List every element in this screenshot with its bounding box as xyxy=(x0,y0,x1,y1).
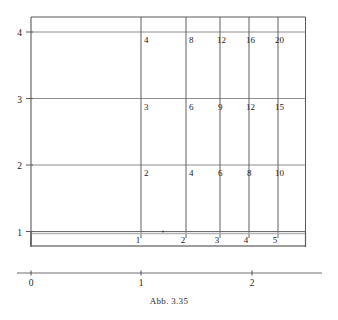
x-axis-numberline: 0 1 2 xyxy=(17,271,322,289)
cell-2-4: 8 xyxy=(247,168,252,178)
cell-3-2: 6 xyxy=(189,102,194,112)
y-tick-label-4: 4 xyxy=(17,28,22,38)
cell-4-2: 8 xyxy=(189,35,194,45)
lattice-row-2: 2 4 6 8 10 xyxy=(144,168,285,178)
cell-3-1: 3 xyxy=(144,102,149,112)
cell-1-5: 5 xyxy=(273,235,278,245)
y-tick-label-1: 1 xyxy=(17,228,22,238)
figure-caption: Abb. 3.35 xyxy=(0,296,338,306)
cell-1-4: 4 xyxy=(244,235,249,245)
cell-2-2: 4 xyxy=(189,168,194,178)
y-tick-label-3: 3 xyxy=(17,95,22,105)
lattice-row-3: 3 6 9 12 15 xyxy=(144,102,285,112)
y-tick-label-2: 2 xyxy=(17,161,22,171)
cell-1-2: 2 xyxy=(181,235,186,245)
vertical-gridlines xyxy=(141,17,278,238)
cell-4-3: 12 xyxy=(217,35,226,45)
cell-2-3: 6 xyxy=(218,168,223,178)
figure-container: 4 3 2 1 4 8 12 16 20 3 6 9 12 15 2 4 6 8… xyxy=(0,0,338,320)
x-tick-label-1: 1 xyxy=(139,278,144,288)
cell-2-1: 2 xyxy=(144,168,149,178)
cell-4-1: 4 xyxy=(144,35,149,45)
lattice-row-4: 4 8 12 16 20 xyxy=(144,35,285,45)
x-tick-label-0: 0 xyxy=(29,278,34,288)
plot-frame xyxy=(31,17,306,246)
cell-3-3: 9 xyxy=(218,102,223,112)
lattice-diagram: 4 3 2 1 4 8 12 16 20 3 6 9 12 15 2 4 6 8… xyxy=(0,0,338,320)
cell-1-3: 3 xyxy=(215,235,220,245)
x-tick-label-2: 2 xyxy=(250,278,255,288)
y-axis-ticks xyxy=(26,32,33,232)
band-marker-dot xyxy=(162,231,164,233)
y-axis-labels: 4 3 2 1 xyxy=(17,28,22,238)
horizontal-gridlines xyxy=(31,32,306,232)
cell-4-5: 20 xyxy=(275,35,285,45)
cell-4-4: 16 xyxy=(246,35,256,45)
cell-3-5: 15 xyxy=(275,102,285,112)
cell-2-5: 10 xyxy=(275,168,285,178)
cell-1-1: 1 xyxy=(136,235,141,245)
lattice-row-1: 1 2 3 4 5 xyxy=(136,235,278,245)
cell-3-4: 12 xyxy=(246,102,255,112)
baseline-band xyxy=(31,231,306,247)
